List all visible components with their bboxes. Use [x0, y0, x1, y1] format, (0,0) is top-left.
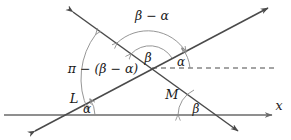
label-x-axis: x: [275, 98, 282, 113]
label-alpha-center: α: [177, 55, 185, 69]
label-pi-minus-beta-minus-alpha: π − (β − α): [67, 61, 139, 76]
label-beta-at-axis: β: [192, 102, 200, 116]
label-line-M: M: [164, 87, 179, 102]
angle-diagram-figure: β − α π − (β − α) β α L α M β x: [0, 0, 291, 140]
arc-beta-minus-alpha-path: [117, 31, 186, 52]
geometry-canvas: β − α π − (β − α) β α L α M β x: [0, 0, 291, 140]
arc-beta-minus-alpha: [117, 31, 186, 52]
label-line-L: L: [69, 91, 79, 106]
label-beta-minus-alpha: β − α: [134, 8, 170, 23]
label-beta-center: β: [143, 50, 151, 65]
label-alpha-at-axis: α: [83, 102, 91, 116]
